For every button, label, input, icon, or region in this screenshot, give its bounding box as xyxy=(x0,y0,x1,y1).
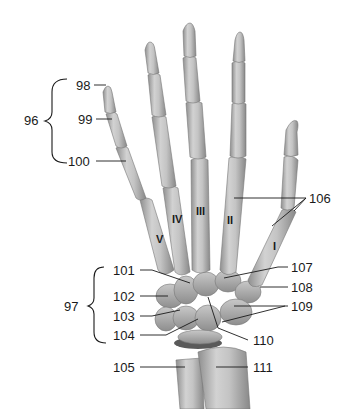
brace-97 xyxy=(88,267,106,343)
group-label-96: 96 xyxy=(24,114,38,127)
hand-bones-diagram: 96 97 98 99 100 101 102 103 104 105 106 … xyxy=(0,0,359,409)
label-101: 101 xyxy=(113,264,135,277)
label-111: 111 xyxy=(253,361,273,374)
label-110: 110 xyxy=(253,334,274,347)
forearm-bones xyxy=(174,337,250,409)
metacarpal-label-iv: IV xyxy=(172,214,182,225)
metacarpal-label-i: I xyxy=(273,241,276,252)
label-103: 103 xyxy=(113,310,135,323)
label-107: 107 xyxy=(291,261,313,274)
label-109: 109 xyxy=(291,300,313,313)
label-102: 102 xyxy=(113,290,135,303)
hand-skeleton-illustration xyxy=(0,0,359,409)
label-100: 100 xyxy=(68,155,90,168)
middle-phalanges xyxy=(106,56,245,148)
metacarpal-label-v: V xyxy=(156,234,163,245)
label-104: 104 xyxy=(113,329,135,342)
label-98: 98 xyxy=(76,79,90,92)
metacarpal-label-iii: III xyxy=(196,206,205,217)
brace-96 xyxy=(45,79,67,163)
label-99: 99 xyxy=(78,113,92,126)
label-106: 106 xyxy=(309,192,331,205)
metacarpal-label-ii: II xyxy=(227,215,233,226)
label-105: 105 xyxy=(113,361,135,374)
label-108: 108 xyxy=(291,281,313,294)
group-label-97: 97 xyxy=(64,300,78,313)
